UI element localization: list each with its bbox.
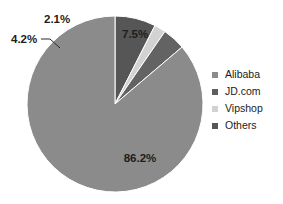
legend-swatch-icon bbox=[212, 106, 218, 112]
pie-value-label-vipshop: 2.1% bbox=[44, 13, 70, 25]
legend-item-others[interactable]: Others bbox=[212, 117, 282, 134]
legend-swatch-icon bbox=[212, 89, 218, 95]
legend-item-label: Vipshop bbox=[225, 103, 263, 114]
pie-value-label-alibaba: 86.2% bbox=[124, 152, 157, 164]
chart-legend: AlibabaJD.comVipshopOthers bbox=[212, 66, 282, 134]
legend-swatch-icon bbox=[212, 123, 218, 129]
pie-chart-figure: 86.2%4.2%2.1%7.5% AlibabaJD.comVipshopOt… bbox=[0, 0, 283, 204]
legend-item-alibaba[interactable]: Alibaba bbox=[212, 66, 282, 83]
legend-swatch-icon bbox=[212, 72, 218, 78]
pie-value-label-jd-com: 4.2% bbox=[11, 33, 37, 45]
legend-item-label: Alibaba bbox=[225, 69, 260, 80]
legend-item-label: JD.com bbox=[225, 86, 261, 97]
legend-item-jd-com[interactable]: JD.com bbox=[212, 83, 282, 100]
pie-value-label-others: 7.5% bbox=[122, 28, 148, 40]
legend-item-label: Others bbox=[225, 120, 257, 131]
legend-item-vipshop[interactable]: Vipshop bbox=[212, 100, 282, 117]
